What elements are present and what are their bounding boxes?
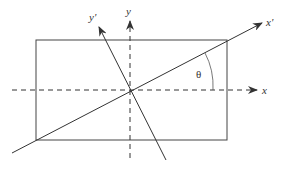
x-axis-label: x [261,84,267,96]
y-prime-label: y' [88,11,97,23]
angle-arc [205,53,213,90]
y-axis-label: y [125,5,131,17]
x-prime-label: x' [265,16,274,28]
theta-label: θ [196,68,201,80]
x-prime-axis [12,23,262,153]
rotated-axes-diagram: x y x' y' θ [0,0,285,172]
